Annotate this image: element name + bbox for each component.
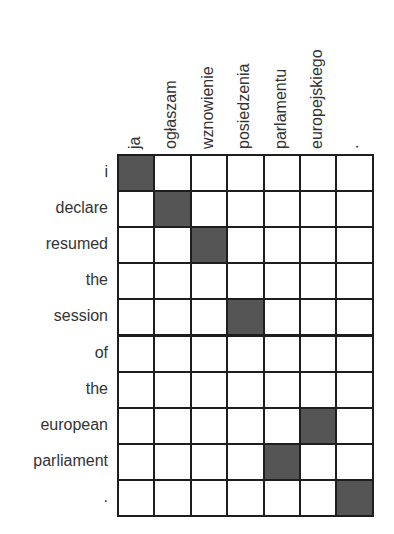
empty-cell (299, 479, 337, 517)
empty-cell (226, 443, 264, 481)
aligned-cell (190, 226, 228, 264)
empty-cell (153, 226, 191, 264)
column-label: europejskiego (308, 49, 326, 149)
empty-cell (153, 335, 191, 373)
empty-cell (335, 226, 373, 264)
empty-cell (117, 298, 155, 336)
empty-cell (190, 298, 228, 336)
empty-cell (263, 371, 301, 409)
row-label: the (0, 271, 108, 289)
empty-cell (153, 298, 191, 336)
empty-cell (335, 298, 373, 336)
empty-cell (335, 190, 373, 228)
empty-cell (335, 335, 373, 373)
column-label: wznowienie (199, 66, 217, 149)
row-label: european (0, 416, 108, 434)
empty-cell (263, 407, 301, 445)
empty-cell (153, 371, 191, 409)
empty-cell (190, 443, 228, 481)
empty-cell (117, 190, 155, 228)
empty-cell (299, 443, 337, 481)
empty-cell (226, 407, 264, 445)
empty-cell (153, 262, 191, 300)
column-label: . (344, 145, 362, 149)
empty-cell (117, 479, 155, 517)
empty-cell (226, 262, 264, 300)
empty-cell (263, 154, 301, 192)
aligned-cell (299, 407, 337, 445)
empty-cell (117, 443, 155, 481)
empty-cell (117, 335, 155, 373)
aligned-cell (153, 190, 191, 228)
row-label: session (0, 307, 108, 325)
empty-cell (263, 335, 301, 373)
empty-cell (190, 371, 228, 409)
empty-cell (226, 371, 264, 409)
empty-cell (263, 226, 301, 264)
empty-cell (335, 154, 373, 192)
empty-cell (299, 190, 337, 228)
row-label: parliament (0, 452, 108, 470)
row-label: the (0, 380, 108, 398)
empty-cell (299, 226, 337, 264)
empty-cell (117, 371, 155, 409)
empty-cell (335, 262, 373, 300)
empty-cell (117, 407, 155, 445)
empty-cell (335, 407, 373, 445)
row-label: i (0, 163, 108, 181)
alignment-matrix: jaogłaszamwznowienieposiedzeniaparlament… (0, 0, 394, 534)
empty-cell (263, 479, 301, 517)
row-label: declare (0, 199, 108, 217)
row-label: resumed (0, 235, 108, 253)
empty-cell (263, 262, 301, 300)
empty-cell (263, 190, 301, 228)
empty-cell (153, 407, 191, 445)
empty-cell (226, 226, 264, 264)
aligned-cell (263, 443, 301, 481)
column-label: parlamentu (272, 69, 290, 149)
empty-cell (299, 298, 337, 336)
empty-cell (299, 335, 337, 373)
column-label: ogłaszam (162, 81, 180, 149)
empty-cell (153, 443, 191, 481)
empty-cell (190, 335, 228, 373)
empty-cell (335, 371, 373, 409)
empty-cell (190, 190, 228, 228)
empty-cell (299, 371, 337, 409)
column-label: posiedzenia (235, 64, 253, 149)
empty-cell (190, 479, 228, 517)
empty-cell (153, 154, 191, 192)
aligned-cell (335, 479, 373, 517)
empty-cell (226, 190, 264, 228)
aligned-cell (117, 154, 155, 192)
column-label: ja (126, 137, 144, 149)
empty-cell (299, 262, 337, 300)
empty-cell (335, 443, 373, 481)
empty-cell (226, 154, 264, 192)
empty-cell (190, 407, 228, 445)
row-label: . (0, 488, 108, 506)
row-label: of (0, 344, 108, 362)
empty-cell (263, 298, 301, 336)
empty-cell (117, 262, 155, 300)
empty-cell (226, 479, 264, 517)
empty-cell (299, 154, 337, 192)
aligned-cell (226, 298, 264, 336)
empty-cell (153, 479, 191, 517)
empty-cell (226, 335, 264, 373)
empty-cell (117, 226, 155, 264)
empty-cell (190, 154, 228, 192)
empty-cell (190, 262, 228, 300)
